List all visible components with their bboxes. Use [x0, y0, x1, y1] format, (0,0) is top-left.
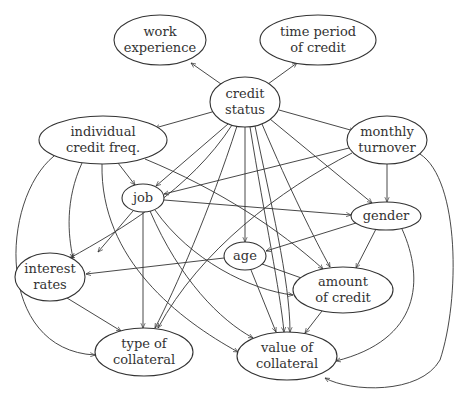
edge-gender-to-amount-of-credit — [356, 229, 376, 268]
node-label: type of — [121, 336, 168, 351]
node-label: collateral — [113, 352, 175, 367]
edge-job-to-interest-rates — [98, 211, 133, 252]
edge-credit-status-to-type-of-collateral — [155, 126, 237, 328]
node-interest-rates: interestrates — [15, 253, 85, 301]
node-label: rates — [33, 277, 67, 292]
edge-credit-status-to-time-period — [268, 63, 297, 84]
node-label: collateral — [256, 356, 318, 371]
node-label: of credit — [315, 290, 371, 305]
node-age: age — [224, 242, 266, 270]
node-label: age — [233, 248, 257, 263]
node-label: individual — [70, 124, 135, 139]
node-label: monthly — [360, 124, 414, 139]
edge-age-to-interest-rates — [86, 258, 224, 274]
edge-credit-status-to-job — [156, 124, 228, 186]
node-gender: gender — [351, 202, 421, 230]
node-time-period: time periodof credit — [260, 15, 376, 65]
edge-indiv-credit-freq-to-interest-rates — [69, 163, 82, 258]
node-type-of-collateral: type ofcollateral — [95, 328, 193, 376]
node-job: job — [122, 184, 164, 212]
edge-credit-status-to-monthly-turnover — [279, 110, 354, 131]
node-label: amount — [318, 274, 369, 289]
edge-amount-of-credit-to-value-of-collateral — [305, 311, 322, 333]
node-label: time period — [280, 24, 356, 39]
node-label: gender — [363, 208, 410, 223]
node-amount-of-credit: amountof credit — [293, 267, 393, 313]
node-label: credit — [226, 86, 266, 101]
node-monthly-turnover: monthlyturnover — [347, 116, 427, 164]
edge-indiv-credit-freq-to-job — [118, 163, 135, 185]
node-label: credit freq. — [66, 140, 140, 155]
edge-credit-status-to-work-experience — [191, 63, 221, 84]
node-work-experience: workexperience — [114, 15, 206, 65]
edge-interest-rates-to-type-of-collateral — [67, 298, 121, 331]
node-label: of credit — [290, 40, 346, 55]
node-credit-status: creditstatus — [210, 77, 280, 127]
graph-svg: workexperiencetime periodof creditcredit… — [0, 0, 467, 393]
causal-graph-diagram: workexperiencetime periodof creditcredit… — [0, 0, 467, 393]
edge-age-to-value-of-collateral — [251, 270, 276, 332]
edge-job-to-amount-of-credit — [155, 210, 293, 295]
node-label: turnover — [358, 140, 416, 155]
node-label: interest — [24, 261, 76, 276]
edge-credit-status-to-indiv-credit-freq — [155, 112, 212, 128]
node-label: status — [225, 102, 265, 117]
node-label: work — [143, 24, 176, 39]
node-indiv-credit-freq: individualcredit freq. — [39, 116, 167, 164]
node-label: experience — [124, 40, 197, 55]
node-value-of-collateral: value ofcollateral — [237, 332, 337, 380]
edge-gender-to-age — [266, 223, 356, 251]
edge-job-to-gender — [164, 200, 351, 215]
edge-credit-status-to-value-of-collateral — [250, 127, 284, 332]
node-label: value of — [260, 340, 314, 355]
node-label: job — [131, 190, 153, 205]
